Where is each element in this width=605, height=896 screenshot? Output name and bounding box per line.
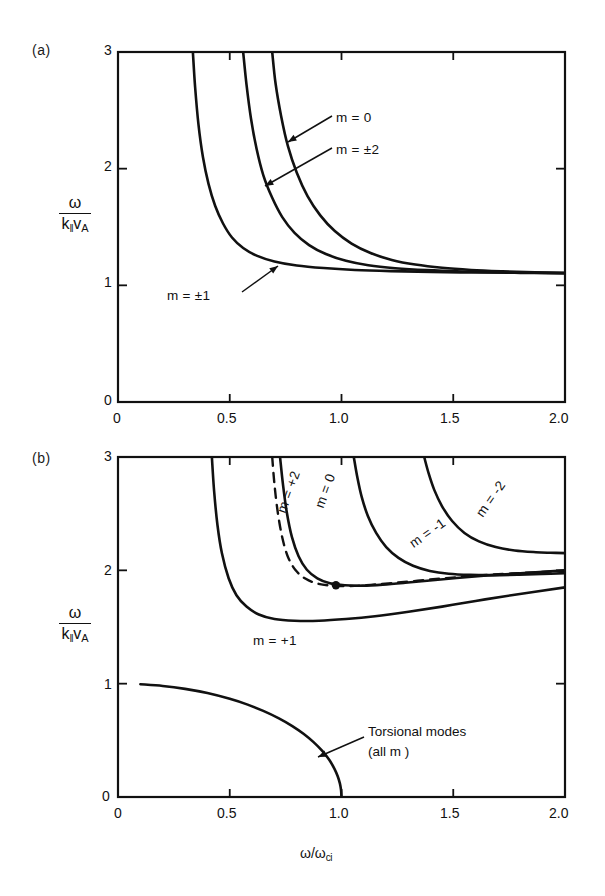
panel-b-torsional-annotation: Torsional modes (all m ): [368, 722, 466, 761]
panel-b-x-axis-label: ω/ωci: [300, 845, 332, 863]
panel-b-ytick-0: 0: [102, 788, 110, 804]
panel-b-ytick-3: 3: [104, 448, 112, 464]
panel-b-ytick-2: 2: [104, 562, 112, 578]
panel-b-xtick-0: 0: [114, 805, 122, 821]
panel-b-label-m-minus1: m = -1: [407, 515, 449, 550]
panel-b-xtick-1p5: 1.5: [440, 805, 459, 821]
figure-root: (a) ω k‖vA 3 2 1 0 0 0.5 1.0 1.5 2.0 m =…: [0, 0, 605, 896]
y-axis-numerator: ω: [59, 605, 92, 623]
panel-b-xtick-0p5: 0.5: [217, 805, 236, 821]
y-axis-denominator: k‖vA: [59, 623, 92, 644]
panel-b-plot: [0, 0, 605, 896]
panel-b-xtick-1p0: 1.0: [329, 805, 348, 821]
panel-b-label-m-minus2: m = -2: [473, 478, 508, 520]
panel-b: (b) ω k‖vA 3 2 1 0 0 0.5 1.0 1.5 2.0 ω/ω…: [0, 0, 605, 896]
panel-b-y-axis-label: ω k‖vA: [44, 605, 106, 644]
torsional-annotation-line1: Torsional modes: [368, 722, 466, 742]
panel-b-xtick-2p0: 2.0: [549, 805, 568, 821]
panel-b-label-m-0: m = 0: [312, 471, 338, 510]
torsional-annotation-line2: (all m ): [368, 742, 466, 762]
panel-b-ytick-1: 1: [104, 676, 112, 692]
panel-b-tag: (b): [32, 450, 51, 466]
panel-b-label-m-plus1: m = +1: [253, 633, 297, 648]
panel-b-label-m-plus2: m = +2: [274, 469, 303, 515]
